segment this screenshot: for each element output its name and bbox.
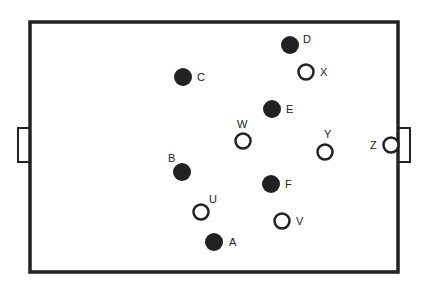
player-label: A (229, 236, 237, 248)
left-goal (18, 128, 30, 162)
player-label: Y (324, 128, 332, 140)
player-label: Z (370, 139, 377, 151)
open-player-marker-icon (318, 145, 333, 160)
player-label: U (209, 193, 217, 205)
player-y: Y (318, 128, 333, 160)
player-label: V (296, 215, 304, 227)
player-v: V (275, 214, 305, 229)
player-label: X (320, 66, 328, 78)
filled-player-marker-icon (205, 233, 223, 251)
player-z: Z (370, 138, 399, 153)
player-a: A (205, 233, 237, 251)
open-player-marker-icon (384, 138, 399, 153)
player-label: F (285, 178, 292, 190)
filled-player-marker-icon (281, 36, 299, 54)
players-layer: ABCDEFUVWXYZ (168, 33, 399, 251)
player-label: D (303, 33, 311, 45)
filled-player-marker-icon (173, 163, 191, 181)
filled-player-marker-icon (263, 100, 281, 118)
open-player-marker-icon (236, 134, 251, 149)
player-u: U (194, 193, 218, 220)
filled-player-marker-icon (174, 68, 192, 86)
player-w: W (236, 118, 251, 149)
player-f: F (262, 175, 292, 193)
filled-player-marker-icon (262, 175, 280, 193)
player-b: B (168, 152, 191, 181)
player-x: X (299, 65, 329, 80)
player-label: W (237, 118, 248, 130)
right-goal (398, 128, 410, 162)
open-player-marker-icon (275, 214, 290, 229)
player-label: C (197, 71, 205, 83)
player-d: D (281, 33, 311, 54)
player-label: E (286, 103, 293, 115)
player-c: C (174, 68, 205, 86)
open-player-marker-icon (299, 65, 314, 80)
player-label: B (168, 152, 175, 164)
open-player-marker-icon (194, 205, 209, 220)
player-e: E (263, 100, 293, 118)
pitch-diagram: ABCDEFUVWXYZ (0, 0, 428, 289)
